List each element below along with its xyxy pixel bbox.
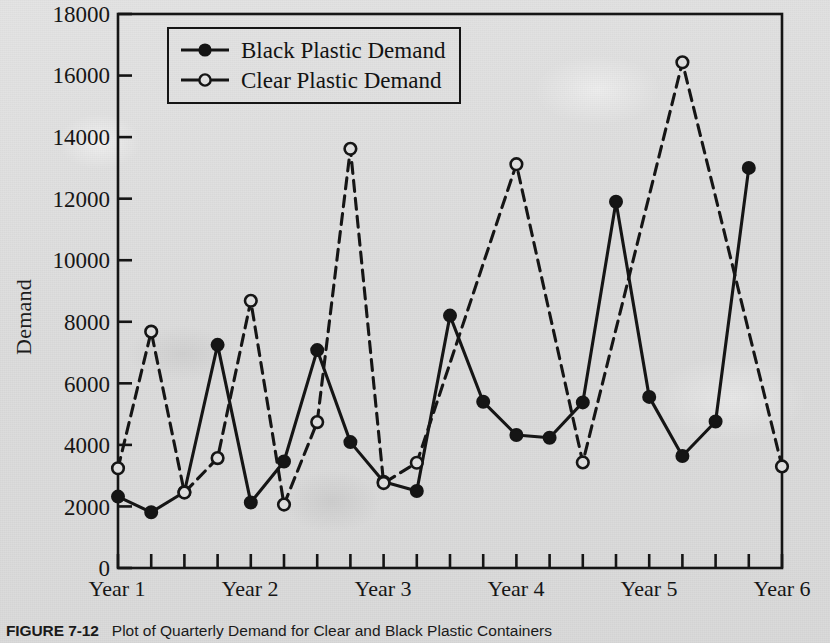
x-tick-label: Year 2 [221,578,278,600]
y-tick-label: 4000 [18,434,110,457]
x-tick-label: Year 4 [487,578,544,600]
y-tick-label: 16000 [18,64,110,87]
x-tick-label: Year 1 [88,578,145,600]
chart-legend: Black Plastic Demand Clear Plastic Deman… [167,27,461,104]
y-tick-label: 14000 [18,126,110,149]
figure-caption-label: FIGURE 7-12 [6,622,99,639]
y-tick-label: 12000 [18,188,110,211]
figure-container: Demand 18000 16000 14000 12000 10000 800… [0,0,830,643]
legend-entry-clear-plastic: Clear Plastic Demand [179,65,445,95]
legend-entry-black-plastic: Black Plastic Demand [179,35,445,65]
x-tick-label: Year 6 [753,578,810,600]
figure-caption-text: Plot of Quarterly Demand for Clear and B… [112,622,552,639]
data-series-layer [112,57,788,519]
y-tick-label: 8000 [18,311,110,334]
figure-caption: FIGURE 7-12Plot of Quarterly Demand for … [6,621,830,641]
x-tick-label: Year 3 [354,578,411,600]
y-tick-label: 2000 [18,496,110,519]
legend-label: Black Plastic Demand [241,39,445,62]
x-tick-label: Year 5 [620,578,677,600]
filled-circle-marker-icon [179,41,231,59]
y-tick-label: 10000 [18,249,110,272]
y-tick-label: 18000 [18,3,110,26]
legend-label: Clear Plastic Demand [241,69,442,92]
y-axis-tick-labels: 18000 16000 14000 12000 10000 8000 6000 … [16,0,110,643]
open-circle-marker-icon [179,71,231,89]
y-tick-label: 6000 [18,373,110,396]
